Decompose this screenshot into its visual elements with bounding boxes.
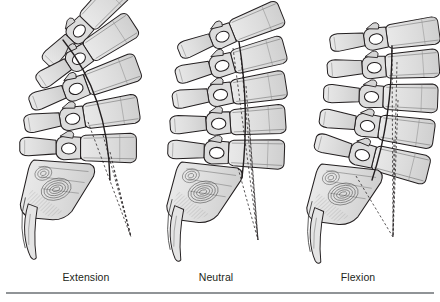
bottom-divider [6,292,434,294]
sacrum-extension [11,153,96,267]
vertebra-stack-flexion [311,14,440,185]
vertebra-stack-extension [20,0,143,163]
caption-extension: Extension [26,268,146,286]
panel-flexion [296,14,440,273]
caption-neutral: Neutral [156,268,276,286]
caption-flexion: Flexion [298,268,418,286]
spine-illustration [0,0,440,302]
vertebra-stack-neutral [167,0,288,169]
sacrum-flexion [296,157,384,272]
figure-root: Extension Neutral Flexion [0,0,440,302]
panel-extension [11,0,143,267]
sacrum-neutral [156,155,244,270]
caption-row: Extension Neutral Flexion [0,268,440,286]
panel-neutral [156,0,288,271]
